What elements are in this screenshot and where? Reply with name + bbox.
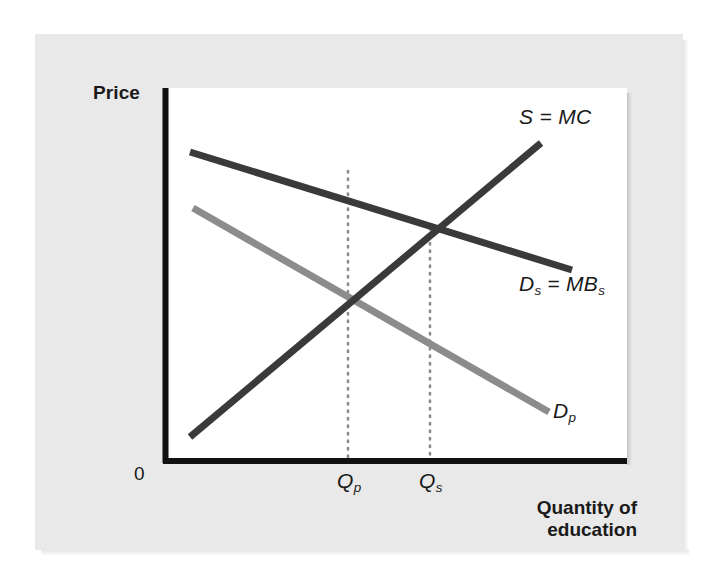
qs-prefix: Q — [419, 469, 436, 492]
curve-label-private-demand: Dp — [553, 399, 576, 423]
curve-label-social-demand: Ds = MBs — [519, 272, 605, 296]
private-demand-prefix: D — [553, 399, 568, 422]
qs-sub: s — [436, 480, 443, 495]
x-axis-title-line2: education — [441, 519, 637, 541]
curve-label-supply: S = MC — [519, 105, 591, 129]
social-demand-sub1: s — [534, 283, 541, 298]
private-demand-sub: p — [568, 410, 575, 425]
origin-label: 0 — [134, 463, 145, 485]
social-demand-sub2: s — [598, 283, 605, 298]
x-axis-title: Quantity of education — [441, 497, 637, 541]
curve-private-demand — [193, 208, 549, 412]
x-axis-title-line1: Quantity of — [441, 497, 637, 519]
qp-prefix: Q — [337, 469, 354, 492]
x-tick-label-qs: Qs — [419, 469, 442, 493]
curve-social-demand — [190, 152, 572, 270]
social-demand-prefix: D — [519, 272, 534, 295]
x-tick-label-qp: Qp — [337, 469, 361, 493]
social-demand-middle: = MB — [541, 272, 598, 295]
qp-sub: p — [354, 480, 361, 495]
figure-container: Price 0 S = MC Ds = MBs Dp Qp Qs Quantit… — [0, 0, 716, 588]
curve-supply — [190, 143, 541, 437]
y-axis-title: Price — [93, 82, 140, 104]
